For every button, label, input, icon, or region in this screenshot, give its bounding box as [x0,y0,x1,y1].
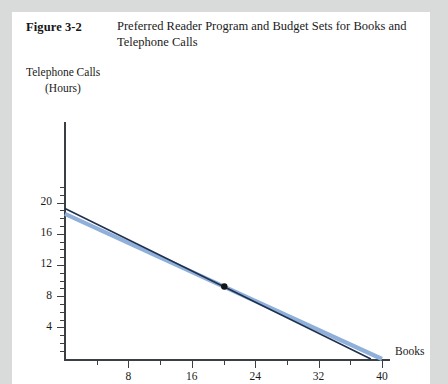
paper-sheet: Figure 3-2 Preferred Reader Program and … [12,12,430,384]
budget-line [65,208,371,359]
chart-plot-area: Telephone Calls (Hours) Books 48121620 8… [12,60,430,384]
screenshot-page: Figure 3-2 Preferred Reader Program and … [0,0,448,384]
budget-lines [12,60,430,384]
figure-number: Figure 3-2 [26,20,82,35]
figure-header: Figure 3-2 Preferred Reader Program and … [26,20,418,60]
tangency-point-marker [221,283,227,289]
figure-title: Preferred Reader Program and Budget Sets… [117,19,417,50]
